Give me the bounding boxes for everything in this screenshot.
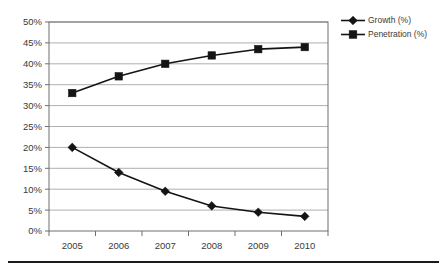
ytick-label: 15% xyxy=(23,163,43,174)
xtick-label: 2009 xyxy=(248,240,269,251)
ytick-label: 40% xyxy=(23,58,43,69)
diamond-marker-icon xyxy=(349,16,358,25)
xtick-label: 2005 xyxy=(62,240,83,251)
square-marker-icon xyxy=(162,60,169,67)
ytick-label: 10% xyxy=(23,184,43,195)
chart-figure: 50% 45% 40% 35% 30% 25% 20% 15% 10% 5% 0… xyxy=(0,0,447,269)
ytick-label: 5% xyxy=(28,205,42,216)
xtick-label: 2010 xyxy=(294,240,315,251)
xtick-label: 2008 xyxy=(201,240,222,251)
legend-label-penetration: Penetration (%) xyxy=(368,29,427,39)
x-axis-ticks xyxy=(49,231,328,236)
square-marker-icon xyxy=(301,43,308,50)
legend-entry-penetration[interactable]: Penetration (%) xyxy=(341,29,427,39)
x-axis-tick-labels: 2005 2006 2007 2008 2009 2010 xyxy=(62,240,316,251)
ytick-label: 25% xyxy=(23,121,43,132)
chart-legend: Growth (%) Penetration (%) xyxy=(341,15,427,39)
legend-label-growth: Growth (%) xyxy=(368,15,411,25)
ytick-label: 45% xyxy=(23,37,43,48)
legend-entry-growth[interactable]: Growth (%) xyxy=(341,15,411,25)
ytick-label: 50% xyxy=(23,16,43,27)
square-marker-icon xyxy=(255,45,262,52)
square-marker-icon xyxy=(69,89,76,96)
square-marker-icon xyxy=(208,52,215,59)
square-marker-icon xyxy=(349,31,357,39)
ytick-label: 35% xyxy=(23,79,43,90)
ytick-label: 30% xyxy=(23,100,43,111)
xtick-label: 2007 xyxy=(155,240,176,251)
square-marker-icon xyxy=(115,73,122,80)
y-axis-tick-labels: 50% 45% 40% 35% 30% 25% 20% 15% 10% 5% 0… xyxy=(23,16,43,236)
y-axis-ticks xyxy=(45,22,49,231)
line-chart: 50% 45% 40% 35% 30% 25% 20% 15% 10% 5% 0… xyxy=(0,0,447,269)
ytick-label: 0% xyxy=(28,225,42,236)
xtick-label: 2006 xyxy=(108,240,129,251)
ytick-label: 20% xyxy=(23,142,43,153)
